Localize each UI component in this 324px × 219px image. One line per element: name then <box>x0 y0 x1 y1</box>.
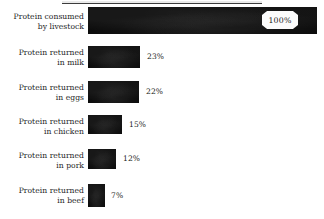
row-label-line2: by livestock <box>6 22 84 32</box>
bar-value-milk: 23% <box>147 52 164 61</box>
row-label-line1: Protein returned <box>19 151 84 160</box>
protein-return-bar-chart: Protein consumed by livestock 100% Prote… <box>0 0 324 219</box>
row-label-chicken: Protein returned in chicken <box>6 117 84 136</box>
row-label-line2: in pork <box>6 161 84 171</box>
row-label-milk: Protein returned in milk <box>6 48 84 67</box>
row-label-eggs: Protein returned in eggs <box>6 83 84 102</box>
bar-value-beef: 7% <box>111 191 123 200</box>
bar-value-pork: 12% <box>123 154 140 163</box>
row-label-line1: Protein returned <box>19 48 84 57</box>
row-label-line2: in eggs <box>6 93 84 103</box>
chart-row-beef: Protein returned in beef 7% <box>0 180 324 214</box>
bar-pork <box>88 149 116 169</box>
bar-livestock: 100% <box>88 7 317 34</box>
bar-beef <box>88 184 105 207</box>
row-label-line2: in milk <box>6 58 84 68</box>
chart-row-livestock: Protein consumed by livestock 100% <box>0 4 324 37</box>
row-label-livestock: Protein consumed by livestock <box>6 12 84 31</box>
row-label-pork: Protein returned in pork <box>6 151 84 170</box>
bar-milk <box>88 46 140 68</box>
bar-eggs <box>88 81 139 103</box>
row-label-line1: Protein returned <box>19 186 84 195</box>
chart-rows: Protein consumed by livestock 100% Prote… <box>0 0 324 219</box>
chart-row-chicken: Protein returned in chicken 15% <box>0 111 324 143</box>
bar-chicken <box>88 115 122 134</box>
chart-row-milk: Protein returned in milk 23% <box>0 41 324 74</box>
bar-value-eggs: 22% <box>146 87 163 96</box>
row-label-line1: Protein returned <box>19 83 84 92</box>
bar-value-livestock: 100% <box>268 16 291 25</box>
row-label-line2: in chicken <box>6 127 84 137</box>
chart-row-eggs: Protein returned in eggs 22% <box>0 76 324 109</box>
row-label-line1: Protein consumed <box>14 12 84 21</box>
chart-row-pork: Protein returned in pork 12% <box>0 145 324 178</box>
row-label-beef: Protein returned in beef <box>6 186 84 205</box>
bar-value-chicken: 15% <box>129 120 146 129</box>
row-label-line2: in beef <box>6 196 84 206</box>
row-label-line1: Protein returned <box>19 117 84 126</box>
bar-value-badge-livestock: 100% <box>262 11 298 29</box>
